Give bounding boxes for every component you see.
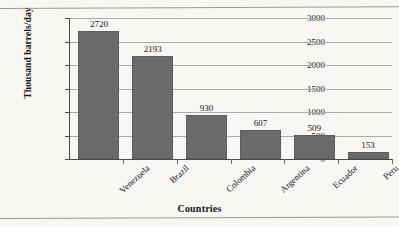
bar-value-label: 607: [240, 118, 281, 128]
bar: [186, 115, 227, 159]
y-axis-title: Thousand barrels/day: [23, 0, 33, 127]
bar: [132, 56, 173, 159]
bar-value-label: 930: [186, 103, 227, 113]
x-category-label: Brazil: [167, 163, 190, 185]
x-axis-category-labels: VenezuelaBrazilColombiaArgentinaEcuadorP…: [69, 161, 399, 206]
chart-figure: Thousand barrels/day 0500100015002000250…: [0, 0, 399, 227]
x-axis-title: Countries: [0, 203, 399, 214]
x-category-label: Ecuador: [331, 163, 360, 190]
bar-series: [69, 18, 392, 159]
y-tick: [65, 159, 70, 160]
bar-value-label: 2193: [132, 44, 173, 54]
bar: [78, 31, 119, 159]
x-category-label: Argentina: [278, 163, 311, 194]
bar-value-label: 2720: [78, 19, 119, 29]
bottom-divider-rule: [0, 217, 399, 219]
top-divider-rule: [0, 6, 399, 9]
x-category-label: Colombia: [225, 163, 258, 194]
bar-value-label: 153: [348, 140, 389, 150]
plot-area: 27202193930607509153: [69, 18, 392, 159]
x-category-label: Venezuela: [117, 163, 151, 195]
bar: [348, 152, 389, 159]
bar: [294, 135, 335, 159]
bar-value-label: 509: [294, 123, 335, 133]
bar: [240, 130, 281, 159]
x-category-label: Peru: [381, 163, 399, 181]
